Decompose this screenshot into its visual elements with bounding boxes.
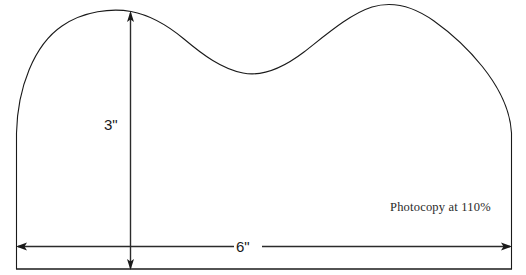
photocopy-note: Photocopy at 110%: [390, 200, 491, 215]
pattern-outline-svg: [0, 0, 526, 275]
pattern-drawing-page: 3" 6" Photocopy at 110%: [0, 0, 526, 275]
template-outline-path: [17, 5, 512, 269]
height-dimension-label: 3": [104, 116, 118, 133]
width-dimension-label: 6": [236, 238, 250, 255]
